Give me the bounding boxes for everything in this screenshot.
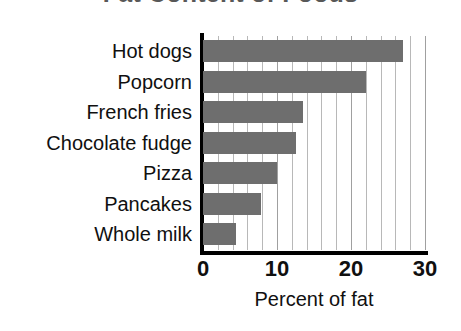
- bar-row: [203, 219, 425, 250]
- bar-row: [203, 67, 425, 98]
- category-label: Pizza: [143, 158, 192, 189]
- bar: [203, 40, 403, 62]
- category-label: Hot dogs: [112, 36, 192, 67]
- bar-row: [203, 36, 425, 67]
- x-tick-label: 30: [413, 256, 437, 282]
- category-label: Popcorn: [118, 67, 193, 98]
- plot-area: [203, 36, 425, 250]
- category-label: Pancakes: [104, 189, 192, 220]
- category-label: French fries: [86, 97, 192, 128]
- x-axis-title: Percent of fat: [203, 288, 425, 311]
- bar-row: [203, 128, 425, 159]
- x-tick-label: 20: [339, 256, 363, 282]
- bar: [203, 132, 296, 154]
- bar-series: [203, 36, 425, 250]
- bar: [203, 71, 366, 93]
- category-label: Chocolate fudge: [46, 128, 192, 159]
- bar: [203, 162, 277, 184]
- x-tick-label: 0: [197, 256, 209, 282]
- bar-row: [203, 189, 425, 220]
- chart-title: Fat Content of Foods: [0, 0, 461, 8]
- fat-content-bar-chart: Fat Content of Foods Hot dogsPopcornFren…: [0, 0, 461, 331]
- category-axis-labels: Hot dogsPopcornFrench friesChocolate fud…: [0, 36, 197, 250]
- bar-row: [203, 158, 425, 189]
- bar: [203, 193, 261, 215]
- x-tick-label: 10: [265, 256, 289, 282]
- category-label: Whole milk: [94, 219, 192, 250]
- x-axis-line: [200, 251, 428, 255]
- bar: [203, 101, 303, 123]
- x-axis-tick-labels: 0102030: [203, 256, 425, 282]
- bar: [203, 223, 236, 245]
- bar-row: [203, 97, 425, 128]
- gridline: [425, 36, 426, 250]
